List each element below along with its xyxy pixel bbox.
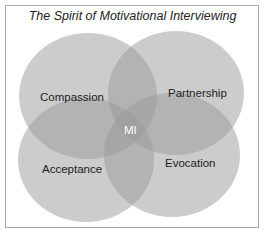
label-evocation: Evocation xyxy=(165,157,216,169)
circle-evocation xyxy=(104,93,240,217)
venn-diagram xyxy=(0,0,265,236)
label-partnership: Partnership xyxy=(168,87,227,99)
label-acceptance: Acceptance xyxy=(42,163,102,175)
label-compassion: Compassion xyxy=(40,91,104,103)
center-label-mi: MI xyxy=(124,124,137,136)
